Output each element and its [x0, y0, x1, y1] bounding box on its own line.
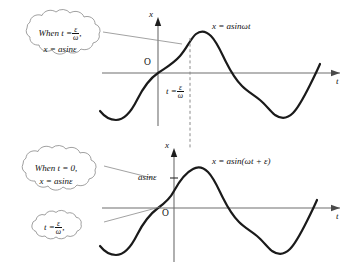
top-callout-line-1: When t =εω, [18, 26, 102, 43]
bottom-callout-top-text: When t = 0, x = asinε [14, 162, 98, 188]
bottom-x-axis-label: x [165, 141, 169, 150]
top-callout-fraction: εω [72, 26, 79, 43]
bottom-callout-bottom-denominator: ω [55, 227, 62, 236]
top-callout-line-2: x = asinε [18, 43, 102, 56]
top-dashed-marker-numerator: ε [177, 84, 184, 92]
top-dashed-marker-fraction: εω [177, 84, 184, 101]
bottom-equation-text: x = asin(ωt + ε) [212, 156, 271, 166]
top-dashed-marker-denominator: ω [177, 91, 184, 100]
bottom-callout-bottom-text: t =εω, [44, 220, 64, 237]
top-callout-line1-suffix: , [79, 28, 81, 38]
top-callout-line1-prefix: When t = [38, 28, 72, 38]
top-callout-text: When t =εω, x = asinε [18, 26, 102, 56]
figure-canvas: x t O x = asinωt t =εω When t =εω, x = a… [0, 0, 356, 271]
bottom-callout-top-line-2: x = asinε [14, 175, 98, 188]
top-t-axis-label: t [336, 77, 339, 86]
top-graph-axes [102, 17, 340, 126]
bottom-callout-top-line-1: When t = 0, [14, 162, 98, 175]
top-equation-text: x = asinωt [212, 21, 250, 31]
top-origin-label: O [144, 58, 151, 68]
bottom-callout-bottom-lhs: t = [44, 222, 55, 232]
top-sine-curve [100, 32, 320, 120]
top-equation-label: x = asinωt [212, 22, 250, 31]
bottom-equation-label: x = asin(ωt + ε) [212, 157, 271, 166]
top-callout-numerator: ε [72, 26, 79, 34]
bottom-origin-label: O [162, 209, 169, 219]
top-dashed-marker-label: t =εω [166, 84, 184, 101]
bottom-sine-curve [100, 167, 317, 255]
bottom-callout-bottom-fraction: εω [55, 220, 62, 237]
top-dashed-marker-lhs: t = [166, 86, 177, 96]
bottom-callout-bottom-numerator: ε [55, 220, 62, 228]
top-x-axis-label: x [149, 10, 153, 19]
bottom-callout-bottom-suffix: , [62, 222, 64, 232]
top-callout-leader-line [103, 32, 182, 44]
bottom-t-axis-label: t [336, 212, 339, 221]
bottom-intercept-label: asinε [138, 173, 157, 182]
top-x-axis-arrow [155, 17, 161, 26]
bottom-x-axis-arrow [171, 148, 177, 157]
top-callout-denominator: ω [72, 33, 79, 42]
